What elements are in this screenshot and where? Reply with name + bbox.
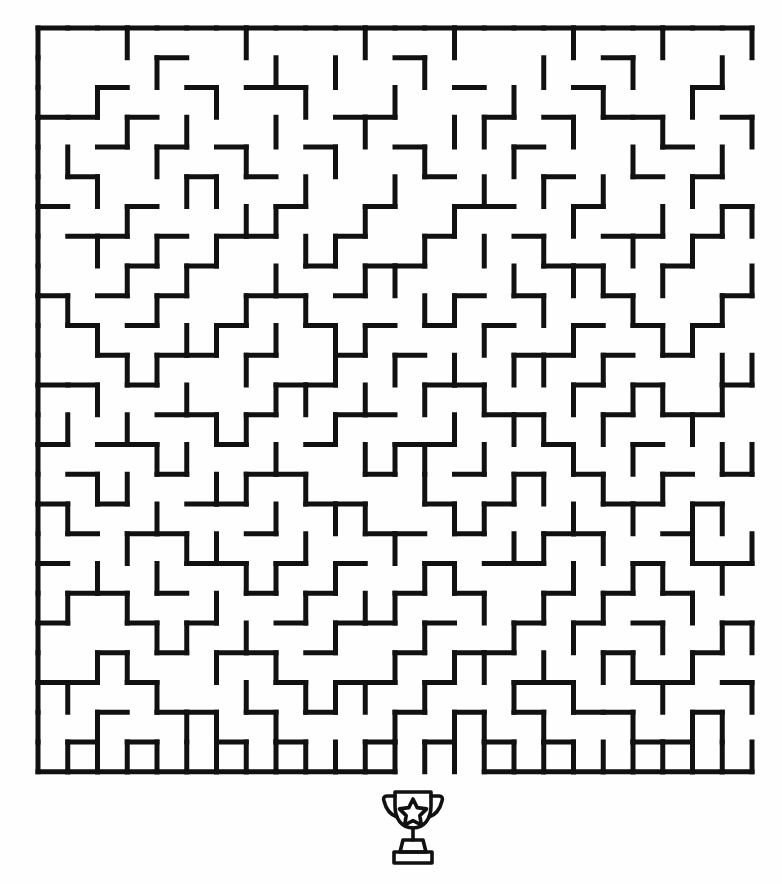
trophy-container [381,786,445,868]
trophy-icon [381,786,445,868]
trophy-base-lower [394,852,432,863]
trophy-star-icon [399,799,426,825]
maze-page [0,0,782,884]
maze-canvas [0,0,782,884]
